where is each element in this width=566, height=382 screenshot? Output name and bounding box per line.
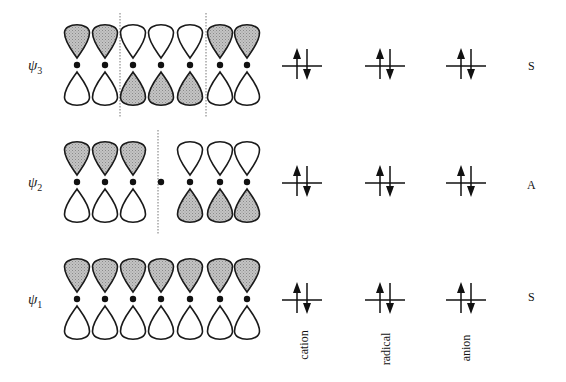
atom-dot <box>217 62 223 68</box>
atom-dot <box>102 62 108 68</box>
psi1-anion-energy-level <box>446 282 486 314</box>
psi1-orbitals <box>65 259 260 340</box>
shaded-lobe <box>235 189 260 222</box>
atom-dot <box>130 179 136 185</box>
unshaded-lobe <box>178 306 203 339</box>
spin-up-arrow-icon <box>457 48 465 59</box>
shaded-lobe <box>93 25 118 58</box>
shaded-lobe <box>208 25 233 58</box>
psi-symbol: ψ <box>28 57 37 73</box>
psi2-cation-energy-level <box>282 165 322 197</box>
unshaded-lobe <box>235 142 260 175</box>
spin-down-arrow-icon <box>386 69 394 80</box>
atom-dot <box>74 179 80 185</box>
orbital-layer <box>65 13 260 339</box>
spin-up-arrow-icon <box>293 48 301 59</box>
shaded-lobe <box>65 25 90 58</box>
spin-down-arrow-icon <box>303 186 311 197</box>
symmetry-label-psi1: S <box>528 291 535 303</box>
shaded-lobe <box>208 259 233 292</box>
atom-dot <box>158 296 164 302</box>
unshaded-lobe <box>93 306 118 339</box>
unshaded-lobe <box>208 72 233 105</box>
unshaded-lobe <box>178 25 203 58</box>
unshaded-lobe <box>93 189 118 222</box>
shaded-lobe <box>121 142 146 175</box>
atom-dot <box>187 62 193 68</box>
unshaded-lobe <box>208 306 233 339</box>
psi1-label: ψ1 <box>28 292 42 310</box>
psi1-radical-energy-level <box>365 282 405 314</box>
atom-dot <box>187 179 193 185</box>
shaded-lobe <box>235 259 260 292</box>
spin-up-arrow-icon <box>293 282 301 293</box>
atom-dot <box>217 179 223 185</box>
unshaded-lobe <box>65 189 90 222</box>
shaded-lobe <box>65 142 90 175</box>
spin-down-arrow-icon <box>386 303 394 314</box>
shaded-lobe <box>65 259 90 292</box>
unshaded-lobe <box>121 189 146 222</box>
atom-dot <box>244 179 250 185</box>
shaded-lobe <box>178 72 203 105</box>
spin-down-arrow-icon <box>303 303 311 314</box>
unshaded-lobe <box>93 72 118 105</box>
spin-up-arrow-icon <box>376 165 384 176</box>
unshaded-lobe <box>235 72 260 105</box>
atom-dot <box>102 179 108 185</box>
unshaded-lobe <box>178 142 203 175</box>
spin-up-arrow-icon <box>376 48 384 59</box>
psi1-cation-energy-level <box>282 282 322 314</box>
unshaded-lobe <box>149 306 174 339</box>
energy-level-layer <box>282 48 486 314</box>
psi-subscript: 2 <box>37 182 42 193</box>
atom-dot <box>244 296 250 302</box>
unshaded-lobe <box>65 72 90 105</box>
spin-down-arrow-icon <box>467 303 475 314</box>
spin-down-arrow-icon <box>386 186 394 197</box>
atom-dot <box>217 296 223 302</box>
psi2-orbitals <box>65 130 260 234</box>
psi2-radical-energy-level <box>365 165 405 197</box>
psi-symbol: ψ <box>28 291 37 307</box>
spin-up-arrow-icon <box>457 282 465 293</box>
column-label-anion: anion <box>460 328 472 368</box>
unshaded-lobe <box>65 306 90 339</box>
column-label-cation: cation <box>298 325 310 365</box>
spin-down-arrow-icon <box>303 69 311 80</box>
unshaded-lobe <box>235 306 260 339</box>
psi3-anion-energy-level <box>446 48 486 80</box>
atom-dot <box>158 179 164 185</box>
shaded-lobe <box>235 25 260 58</box>
psi-symbol: ψ <box>28 174 37 190</box>
shaded-lobe <box>121 72 146 105</box>
shaded-lobe <box>178 189 203 222</box>
atom-dot <box>130 62 136 68</box>
shaded-lobe <box>93 142 118 175</box>
spin-up-arrow-icon <box>457 165 465 176</box>
spin-up-arrow-icon <box>376 282 384 293</box>
spin-up-arrow-icon <box>293 165 301 176</box>
mo-diagram <box>0 0 566 382</box>
unshaded-lobe <box>121 25 146 58</box>
atom-dot <box>74 296 80 302</box>
shaded-lobe <box>208 189 233 222</box>
psi-subscript: 3 <box>37 65 42 76</box>
atom-dot <box>158 62 164 68</box>
atom-dot <box>74 62 80 68</box>
psi2-label: ψ2 <box>28 175 42 193</box>
atom-dot <box>244 62 250 68</box>
psi2-anion-energy-level <box>446 165 486 197</box>
shaded-lobe <box>121 259 146 292</box>
atom-dot <box>130 296 136 302</box>
psi3-radical-energy-level <box>365 48 405 80</box>
shaded-lobe <box>149 72 174 105</box>
spin-down-arrow-icon <box>467 186 475 197</box>
atom-dot <box>102 296 108 302</box>
symmetry-label-psi3: S <box>528 60 535 72</box>
psi-subscript: 1 <box>37 299 42 310</box>
shaded-lobe <box>93 259 118 292</box>
unshaded-lobe <box>208 142 233 175</box>
psi3-cation-energy-level <box>282 48 322 80</box>
spin-down-arrow-icon <box>467 69 475 80</box>
